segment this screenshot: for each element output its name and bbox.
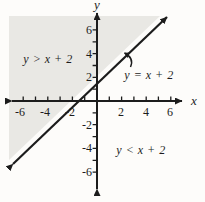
y-tick-label-6: 6: [72, 23, 92, 37]
boundary-line-label: y = x + 2: [115, 68, 183, 82]
y-tick-label-neg4: -4: [72, 141, 92, 155]
x-tick-label-neg4: -4: [33, 105, 57, 119]
region-label-above-line: y > x + 2: [20, 52, 76, 66]
y-tick-label-2: 2: [72, 70, 92, 84]
graph-canvas: [0, 0, 205, 202]
shaded-region-above-line: [9, 16, 160, 160]
x-axis-label: x: [186, 94, 202, 108]
inequality-graph-figure: y x y > x + 2 y = x + 2 y < x + 2 -6 -4 …: [0, 0, 205, 202]
y-tick-label-neg6: -6: [72, 165, 92, 179]
x-tick-label-2: 2: [109, 105, 133, 119]
x-tick-label-6: 6: [158, 105, 182, 119]
y-axis-label: y: [89, 0, 105, 12]
region-label-below-line: y < x + 2: [113, 143, 169, 157]
y-tick-label-4: 4: [72, 47, 92, 61]
y-tick-label-neg2: -2: [72, 118, 92, 132]
x-tick-label-neg6: -6: [8, 105, 32, 119]
x-tick-label-4: 4: [134, 105, 158, 119]
x-tick-label-neg2: -2: [58, 105, 82, 119]
